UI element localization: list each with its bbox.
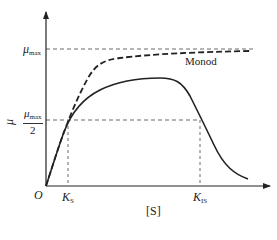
half-mumax-denominator: 2 <box>30 124 36 136</box>
kis-subscript: IS <box>201 197 207 205</box>
kis-symbol: K <box>193 190 201 204</box>
mumax-label: μmax <box>23 43 41 57</box>
ks-symbol: K <box>62 190 70 204</box>
inhibition-curve <box>46 78 248 186</box>
monod-annotation: Monod <box>185 56 217 67</box>
ks-label: KS <box>62 191 74 205</box>
ks-subscript: S <box>70 197 74 205</box>
half-mumax-label: μmax 2 <box>23 107 43 136</box>
x-axis-label: [S] <box>146 205 161 217</box>
origin-label: O <box>34 189 43 201</box>
kis-label: KIS <box>193 191 207 205</box>
half-mumax-subscript: max <box>30 113 42 121</box>
mumax-subscript: max <box>29 49 41 57</box>
y-axis-label: μ <box>3 119 15 125</box>
monod-curve <box>46 51 250 186</box>
